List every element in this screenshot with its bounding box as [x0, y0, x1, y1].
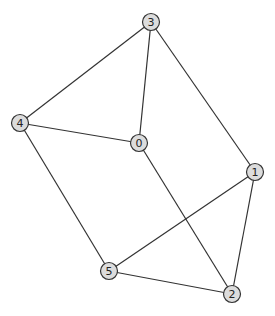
edge-3-4 [20, 22, 151, 123]
node-0: 0 [131, 135, 148, 152]
node-label: 5 [106, 265, 113, 278]
edge-3-1 [151, 22, 255, 172]
node-5: 5 [101, 263, 118, 280]
edge-4-0 [20, 123, 139, 143]
node-label: 3 [148, 16, 155, 29]
node-1: 1 [247, 164, 264, 181]
node-label: 1 [252, 166, 259, 179]
node-2: 2 [224, 286, 241, 303]
node-3: 3 [143, 14, 160, 31]
node-label: 4 [17, 117, 24, 130]
edge-4-5 [20, 123, 109, 271]
edge-3-0 [139, 22, 151, 143]
node-4: 4 [12, 115, 29, 132]
graph-diagram: 012345 [0, 0, 275, 316]
edge-5-2 [109, 271, 232, 294]
node-label: 2 [229, 288, 236, 301]
edge-1-5 [109, 172, 255, 271]
node-label: 0 [136, 137, 143, 150]
nodes-layer: 012345 [12, 14, 264, 303]
edge-1-2 [232, 172, 255, 294]
edges-layer [20, 22, 255, 294]
